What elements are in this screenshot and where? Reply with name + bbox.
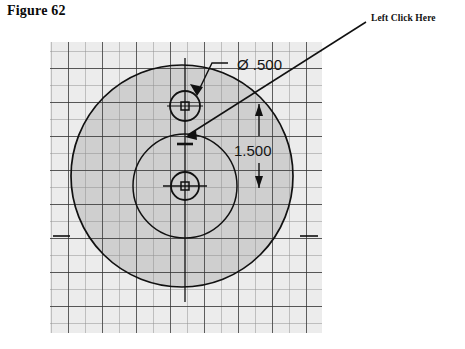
cad-drawing-canvas[interactable]: Ø .500 1.500 [0, 0, 465, 349]
linear-dimension-text: 1.500 [234, 142, 272, 159]
grid-overlay [50, 42, 322, 333]
diameter-dimension-text: Ø .500 [237, 56, 282, 73]
grid-major-lines [50, 42, 322, 333]
figure-page: Figure 62 Left Click Here [0, 0, 465, 349]
